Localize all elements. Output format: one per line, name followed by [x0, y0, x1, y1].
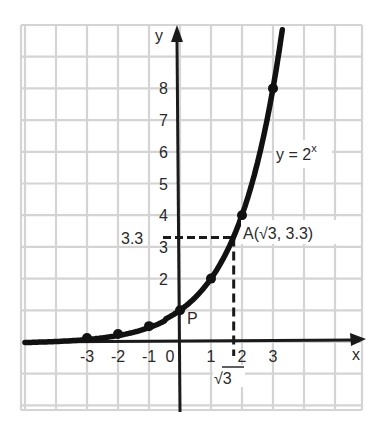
x-tick-label: 2 — [238, 348, 247, 365]
y-axis-arrow-icon — [171, 25, 183, 42]
data-point — [144, 321, 154, 331]
y-tick-label: 2 — [159, 271, 168, 288]
x-tick-label: -3 — [80, 348, 94, 365]
y-tick-label: 7 — [159, 112, 168, 129]
x-guide-label: √3 — [214, 370, 232, 387]
data-point — [82, 333, 92, 343]
x-tick-label: 1 — [207, 348, 216, 365]
y-tick-label: 8 — [159, 80, 168, 97]
y-tick-label: 3 — [159, 239, 168, 256]
y-guide-label: 3.3 — [121, 230, 143, 247]
function-curve — [25, 30, 282, 343]
x-tick-label: -1 — [142, 348, 156, 365]
x-tick-label: 0 — [166, 348, 175, 365]
x-tick-label: 3 — [269, 348, 278, 365]
data-point — [237, 210, 247, 220]
x-axis-label: x — [352, 346, 360, 363]
data-point — [206, 274, 216, 284]
x-axis-arrow-icon — [350, 333, 366, 346]
point-p-label: P — [187, 310, 198, 327]
data-point — [175, 305, 185, 315]
y-tick-label: 5 — [159, 176, 168, 193]
y-tick-label: 6 — [159, 144, 168, 161]
data-point — [268, 83, 278, 93]
point-a-label: A(√3, 3.3) — [243, 225, 313, 242]
y-axis-label: y — [155, 27, 163, 44]
exponential-graph: -3-2-101232345678xy3.3√3PA(√3, 3.3)y = 2… — [0, 0, 392, 439]
axes — [23, 25, 366, 412]
function-label: y = 2x — [276, 142, 317, 163]
grid — [21, 25, 362, 410]
y-tick-label: 4 — [159, 207, 168, 224]
x-tick-label: -2 — [111, 348, 125, 365]
data-point — [113, 329, 123, 339]
